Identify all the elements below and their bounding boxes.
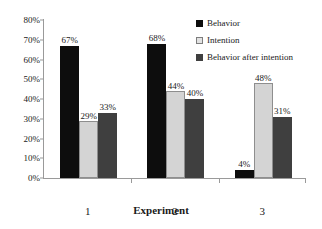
bar-3-2: 48% [254,83,273,178]
bar-value-label: 68% [149,34,166,43]
bar-2-3: 40% [185,99,204,178]
chart-legend: BehaviorIntentionBehavior after intentio… [196,15,293,66]
bar-3-1: 4% [235,170,254,178]
legend-swatch-icon [196,54,203,61]
legend-label: Behavior after intention [207,53,293,62]
legend-swatch-icon [196,37,203,44]
y-axis-tick-label: 50% [24,75,41,84]
legend-label: Intention [207,36,240,45]
legend-swatch-icon [196,20,203,27]
bar-value-label: 31% [274,107,291,116]
y-axis-tick-label: 30% [24,114,41,123]
bar-group: 67%29%33% [44,20,131,178]
bar-2-2: 44% [166,91,185,178]
x-axis-tick-mark [305,178,306,183]
legend-item-1: Behavior [196,15,293,32]
legend-item-3: Behavior after intention [196,49,293,66]
legend-label: Behavior [207,19,240,28]
bar-chart: 0%10%20%30%40%50%60%70%80%67%29%33%168%4… [0,0,322,229]
y-axis-tick-label: 80% [24,16,41,25]
bar-1-3: 33% [98,113,117,178]
y-axis-tick-label: 40% [24,95,41,104]
y-axis-tick-label: 0% [28,174,40,183]
x-axis-line [43,178,306,179]
bar-value-label: 48% [255,74,272,83]
bar-value-label: 4% [238,160,250,169]
bar-2-1: 68% [147,44,166,178]
y-axis-tick-label: 60% [24,55,41,64]
legend-item-2: Intention [196,32,293,49]
bar-value-label: 29% [80,112,97,121]
bar-3-3: 31% [273,117,292,178]
bar-1-2: 29% [79,121,98,178]
bar-value-label: 33% [99,103,116,112]
y-axis-tick-label: 20% [24,134,41,143]
x-axis-tick-mark [131,178,132,183]
x-axis-tick-mark [219,178,220,183]
y-axis-tick-label: 10% [24,154,41,163]
bar-1-1: 67% [60,46,79,178]
y-axis-tick-label: 70% [24,35,41,44]
bar-value-label: 44% [168,82,185,91]
bar-value-label: 40% [187,89,204,98]
bar-value-label: 67% [61,36,78,45]
x-axis-title: Experiment [0,205,322,216]
